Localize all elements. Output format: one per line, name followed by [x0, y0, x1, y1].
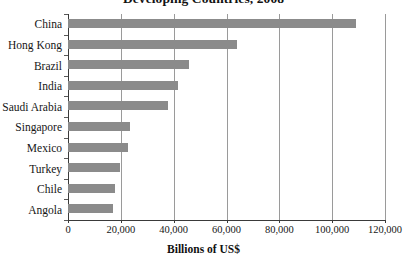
gridline: [385, 14, 386, 220]
x-axis-title: Billions of US$: [0, 243, 407, 255]
bar: [68, 184, 115, 193]
plot-area: [68, 14, 385, 220]
bar: [68, 81, 178, 90]
chart-title: Developing Countries, 2008: [0, 0, 407, 7]
bar: [68, 101, 168, 110]
category-label: China: [0, 18, 62, 30]
category-label: Saudi Arabia: [0, 101, 62, 113]
category-label: Singapore: [0, 121, 62, 133]
bar: [68, 60, 189, 69]
category-label: Angola: [0, 204, 62, 216]
bar-chart: Developing Countries, 2008 ChinaHong Kon…: [0, 0, 407, 267]
category-label: Turkey: [0, 163, 62, 175]
bar: [68, 19, 356, 28]
bar-series: [68, 14, 385, 220]
x-tick-label: 20,000: [106, 223, 135, 236]
category-label: Chile: [0, 183, 62, 195]
x-tick-label: 60,000: [212, 223, 241, 236]
category-label: India: [0, 80, 62, 92]
bar: [68, 204, 113, 213]
category-label: Brazil: [0, 60, 62, 72]
x-tick-label: 40,000: [159, 223, 188, 236]
category-label: Hong Kong: [0, 39, 62, 51]
x-tick-label: 0: [65, 223, 70, 236]
bar: [68, 143, 128, 152]
x-tick-label: 120,000: [368, 223, 402, 236]
category-axis: ChinaHong KongBrazilIndiaSaudi ArabiaSin…: [0, 14, 66, 220]
category-label: Mexico: [0, 142, 62, 154]
x-tick-label: 80,000: [265, 223, 294, 236]
bar: [68, 40, 237, 49]
x-axis-tick-labels: 020,00040,00060,00080,000100,000120,000: [0, 223, 407, 239]
bar: [68, 163, 120, 172]
x-tick-label: 100,000: [315, 223, 349, 236]
bar: [68, 122, 130, 131]
